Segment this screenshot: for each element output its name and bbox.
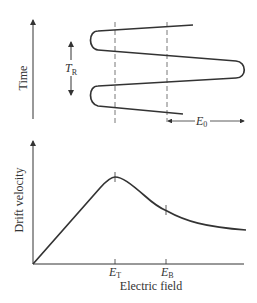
- time-panel: Time TR E0: [16, 20, 244, 129]
- period-label: TR: [65, 61, 78, 77]
- tick-label-EB: EB: [160, 265, 174, 280]
- field-axis-label: Electric field: [120, 279, 182, 293]
- time-axis-label: Time: [16, 66, 30, 91]
- drift-velocity-curve: [33, 177, 246, 264]
- drift-velocity-panel: Drift velocity ET EB Electric field: [12, 141, 246, 293]
- offset-label: E0: [195, 114, 207, 129]
- diagram-canvas: Time TR E0 Drift velocity ET EB Electric…: [0, 0, 257, 303]
- tick-label-ET: ET: [108, 265, 121, 280]
- velocity-axis-label: Drift velocity: [12, 168, 26, 233]
